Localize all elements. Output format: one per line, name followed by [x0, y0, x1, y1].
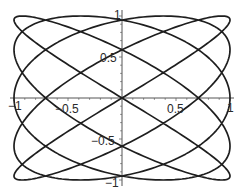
y-tick-label: −1: [105, 176, 119, 189]
x-tick-label: −1: [8, 99, 22, 113]
y-tick-label: 1: [114, 8, 121, 22]
x-tick-label: −0.5: [55, 102, 79, 116]
y-tick-label: −0.5: [91, 134, 115, 148]
lissajous-plot: −1 −0.5 0.5 1 1 0.5 −0.5 −1: [0, 0, 237, 189]
x-tick-label: 0.5: [167, 102, 184, 116]
x-tick-label: 1: [227, 101, 234, 115]
y-tick-label: 0.5: [100, 51, 117, 65]
